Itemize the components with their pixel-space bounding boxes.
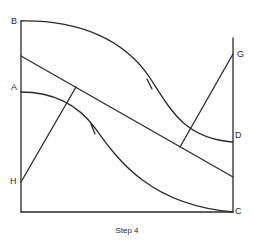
middle-straight-line [21,56,233,177]
point-label-c: C [235,207,242,216]
point-label-d: D [235,131,242,140]
line-h [21,87,76,182]
diagram-canvas [0,0,254,243]
point-label-b: B [11,17,17,26]
point-label-h: H [10,177,17,186]
point-label-a: A [11,83,17,92]
line-g [180,54,233,147]
curve-b-to-d [21,21,233,142]
point-label-g: G [237,50,244,59]
diagram-caption: Step 4 [0,226,254,235]
